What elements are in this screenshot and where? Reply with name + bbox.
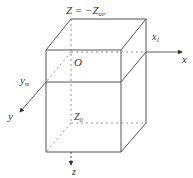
z-axis-label: z [71, 166, 76, 177]
box-diagram: Z = −Zair x1 x O ym y Z0 z [0, 0, 193, 178]
ym-label: ym [19, 74, 30, 87]
x-axis-label: x [181, 53, 187, 65]
y-axis-label: y [7, 110, 13, 122]
box-solid-edges [46, 19, 146, 152]
top-plane-label: Z = −Zair [66, 4, 106, 17]
origin-label: O [74, 56, 82, 68]
x1-label: x1 [151, 31, 159, 43]
y-axis [20, 82, 46, 112]
box-hidden-edges [46, 19, 146, 152]
z0-label: Z0 [74, 111, 83, 123]
axes [20, 52, 182, 165]
